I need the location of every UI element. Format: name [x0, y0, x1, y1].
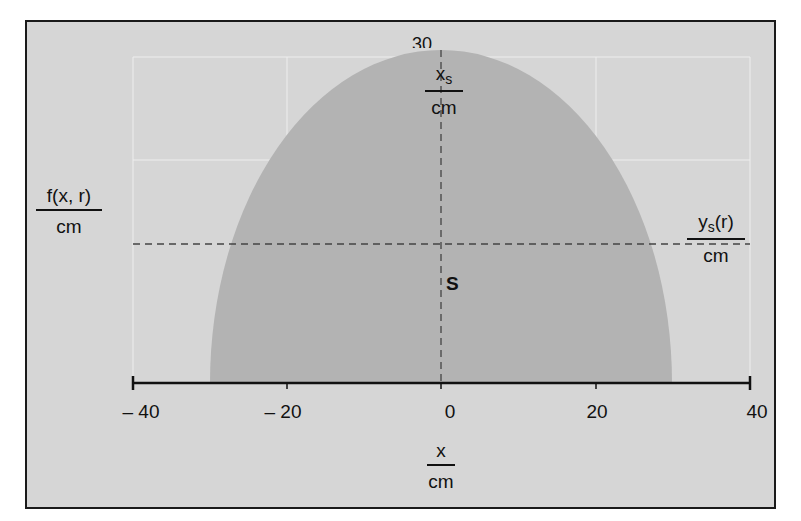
ys-symbol: y — [698, 211, 708, 232]
x-tick-label: 20 — [586, 401, 607, 423]
plot-canvas — [0, 0, 801, 521]
x-tick-label: – 40 — [123, 401, 160, 423]
y-tick-30: 30 — [412, 35, 432, 48]
x-tick-label: – 20 — [265, 401, 302, 423]
ys-denominator: cm — [686, 240, 746, 265]
ys-subscript: s — [708, 219, 715, 235]
ys-argument: (r) — [715, 211, 734, 232]
ys-label: ys(r) cm — [686, 212, 746, 265]
centroid-label: S — [446, 274, 459, 293]
y-axis-label: f(x, r) cm — [36, 186, 102, 236]
y-label-numerator: f(x, r) — [36, 186, 102, 209]
x-axis-label: x cm — [426, 441, 456, 491]
x-label-numerator: x — [426, 441, 456, 464]
x-tick-label: 40 — [746, 401, 767, 423]
xs-symbol: x — [436, 63, 446, 84]
xs-subscript: s — [445, 71, 452, 87]
xs-denominator: cm — [424, 92, 464, 117]
x-tick-label: 0 — [445, 401, 456, 423]
xs-label: xs cm — [424, 64, 464, 117]
y-label-denominator: cm — [36, 211, 102, 236]
x-label-denominator: cm — [426, 466, 456, 491]
